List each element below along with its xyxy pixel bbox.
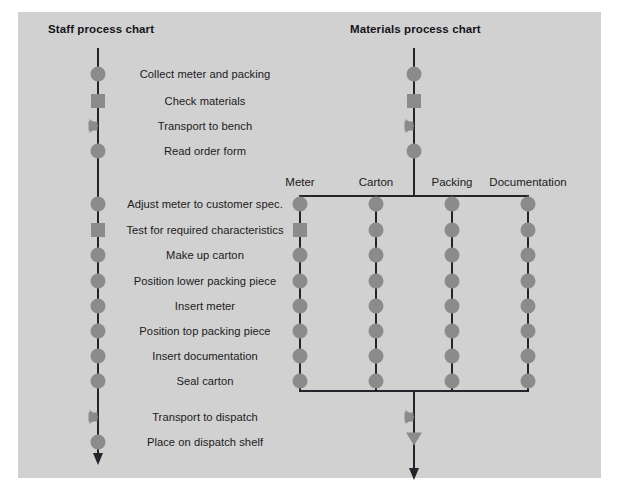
operation-symbol[interactable]: [369, 223, 384, 238]
column-header: Meter: [285, 176, 314, 188]
operation-symbol[interactable]: [445, 248, 460, 263]
operation-symbol[interactable]: [91, 274, 106, 289]
step-label: Insert meter: [175, 300, 235, 312]
operation-symbol[interactable]: [521, 223, 536, 238]
step-label: Read order form: [164, 145, 246, 157]
operation-symbol[interactable]: [521, 349, 536, 364]
operation-symbol[interactable]: [91, 197, 106, 212]
storage-symbol[interactable]: [406, 433, 422, 446]
operation-symbol[interactable]: [445, 374, 460, 389]
operation-symbol[interactable]: [369, 197, 384, 212]
operation-symbol[interactable]: [293, 324, 308, 339]
operation-symbol[interactable]: [91, 324, 106, 339]
operation-symbol[interactable]: [521, 299, 536, 314]
operation-symbol[interactable]: [521, 197, 536, 212]
operation-symbol[interactable]: [293, 349, 308, 364]
operation-symbol[interactable]: [91, 349, 106, 364]
materials-terminal-arrow-icon: [409, 468, 419, 480]
inspection-symbol[interactable]: [91, 223, 105, 237]
column-header: Packing: [432, 176, 473, 188]
operation-symbol[interactable]: [445, 274, 460, 289]
operation-symbol[interactable]: [407, 144, 422, 159]
step-label: Make up carton: [166, 249, 244, 261]
operation-symbol[interactable]: [445, 197, 460, 212]
operation-symbol[interactable]: [369, 374, 384, 389]
operation-symbol[interactable]: [445, 223, 460, 238]
inspection-symbol[interactable]: [407, 94, 421, 108]
operation-symbol[interactable]: [521, 374, 536, 389]
operation-symbol[interactable]: [445, 349, 460, 364]
operation-symbol[interactable]: [293, 299, 308, 314]
operation-symbol[interactable]: [445, 299, 460, 314]
step-label: Place on dispatch shelf: [147, 436, 263, 448]
transport-symbol[interactable]: [406, 119, 415, 133]
column-header: Documentation: [489, 176, 566, 188]
operation-symbol[interactable]: [293, 374, 308, 389]
operation-symbol[interactable]: [91, 374, 106, 389]
operation-symbol[interactable]: [369, 274, 384, 289]
diagram-panel: [18, 12, 601, 478]
column-header: Carton: [359, 176, 394, 188]
step-label: Transport to dispatch: [152, 411, 258, 423]
process-chart-figure: Staff process chart Materials process ch…: [0, 0, 619, 497]
operation-symbol[interactable]: [407, 67, 422, 82]
step-label: Collect meter and packing: [140, 68, 271, 80]
operation-symbol[interactable]: [293, 248, 308, 263]
staff-terminal-arrow-icon: [93, 453, 103, 465]
operation-symbol[interactable]: [91, 299, 106, 314]
transport-symbol[interactable]: [90, 410, 99, 424]
step-label: Test for required characteristics: [126, 224, 283, 236]
step-label: Insert documentation: [152, 350, 257, 362]
step-label: Adjust meter to customer spec.: [127, 198, 283, 210]
step-label: Transport to bench: [158, 120, 252, 132]
operation-symbol[interactable]: [293, 274, 308, 289]
step-label: Seal carton: [176, 375, 233, 387]
step-label: Position lower packing piece: [134, 275, 277, 287]
step-label: Position top packing piece: [139, 325, 270, 337]
operation-symbol[interactable]: [91, 248, 106, 263]
transport-symbol[interactable]: [406, 410, 415, 424]
materials-branch-bar-top: [299, 195, 529, 197]
operation-symbol[interactable]: [369, 349, 384, 364]
operation-symbol[interactable]: [91, 144, 106, 159]
materials-flow-line-bottom: [413, 391, 415, 470]
inspection-symbol[interactable]: [91, 94, 105, 108]
operation-symbol[interactable]: [293, 197, 308, 212]
step-label: Check materials: [165, 95, 246, 107]
operation-symbol[interactable]: [521, 248, 536, 263]
operation-symbol[interactable]: [91, 67, 106, 82]
materials-process-chart-title: Materials process chart: [350, 23, 481, 35]
operation-symbol[interactable]: [521, 324, 536, 339]
operation-symbol[interactable]: [369, 299, 384, 314]
operation-symbol[interactable]: [369, 248, 384, 263]
transport-symbol[interactable]: [90, 119, 99, 133]
operation-symbol[interactable]: [91, 435, 106, 450]
operation-symbol[interactable]: [445, 324, 460, 339]
staff-process-chart-title: Staff process chart: [48, 23, 154, 35]
operation-symbol[interactable]: [521, 274, 536, 289]
operation-symbol[interactable]: [369, 324, 384, 339]
inspection-symbol[interactable]: [293, 223, 307, 237]
